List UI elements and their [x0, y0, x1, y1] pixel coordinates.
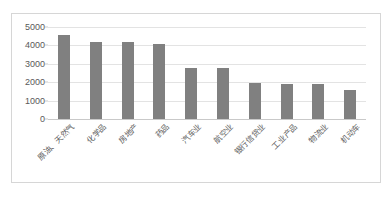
bar	[249, 83, 261, 119]
bar	[344, 90, 356, 119]
bar	[90, 42, 102, 119]
x-axis-tick-label: 原油、天然气	[36, 122, 76, 162]
bar	[312, 84, 324, 119]
x-axis-tick-label: 物流业	[307, 122, 330, 145]
y-axis-tick-label: 4000	[25, 41, 45, 50]
x-axis-tick-label: 房地产	[117, 122, 140, 145]
y-axis-tick-label: 3000	[25, 59, 45, 68]
bar	[153, 44, 165, 119]
y-axis: 500040003000200010000	[12, 27, 45, 119]
bar	[58, 35, 70, 119]
bar	[122, 42, 134, 119]
plot-area	[48, 27, 366, 119]
gridline	[48, 27, 366, 28]
x-axis: 原油、天然气化学品房地产药品汽车业航空业银行信贷业工业产品物流业机动车	[48, 119, 366, 179]
bar	[281, 84, 293, 119]
y-axis-tick-label: 1000	[25, 96, 45, 105]
x-axis-tick-label: 机动车	[339, 122, 362, 145]
x-axis-tick-label: 工业产品	[270, 122, 299, 151]
y-axis-tick-label: 5000	[25, 23, 45, 32]
x-axis-tick-label: 化学品	[85, 122, 108, 145]
bar	[185, 68, 197, 119]
x-axis-tick-label: 航空业	[212, 122, 235, 145]
x-axis-tick-label: 银行信贷业	[232, 122, 267, 157]
chart-container: 500040003000200010000 原油、天然气化学品房地产药品汽车业航…	[11, 13, 381, 183]
bar	[217, 68, 229, 119]
x-axis-tick-label: 药品	[154, 122, 172, 140]
y-axis-tick-label: 2000	[25, 78, 45, 87]
x-axis-tick-label: 汽车业	[180, 122, 203, 145]
